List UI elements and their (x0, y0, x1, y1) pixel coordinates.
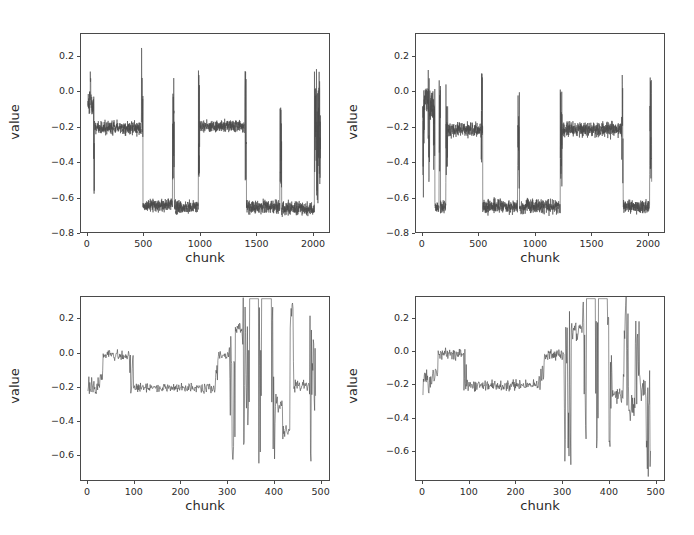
y-tick-mark (77, 127, 80, 128)
x-tick-mark (274, 481, 275, 484)
x-tick-label: 0 (402, 486, 442, 497)
plot-line-bottom-left (81, 297, 329, 480)
y-axis-label-top-left: value (7, 92, 22, 152)
y-tick-label: −0.4 (379, 156, 409, 167)
y-tick-mark (412, 351, 415, 352)
x-tick-mark (227, 481, 228, 484)
y-tick-mark (412, 233, 415, 234)
y-tick-label: −0.6 (379, 445, 409, 456)
y-tick-label: 0.2 (379, 50, 409, 61)
y-tick-mark (77, 162, 80, 163)
figure-canvas: value chunk 0.20.0−0.2−0.4−0.6−0.8 05001… (0, 0, 694, 535)
x-tick-mark (478, 233, 479, 236)
y-tick-label: −0.2 (379, 121, 409, 132)
x-tick-label: 0 (402, 238, 442, 249)
x-tick-mark (321, 481, 322, 484)
y-tick-mark (412, 198, 415, 199)
x-tick-mark (591, 233, 592, 236)
x-tick-mark (87, 233, 88, 236)
y-tick-label: 0.0 (44, 85, 74, 96)
x-tick-mark (609, 481, 610, 484)
panel-bottom-left: value chunk 0.20.0−0.2−0.4−0.6 010020030… (0, 268, 347, 535)
y-tick-label: −0.6 (44, 192, 74, 203)
y-tick-mark (77, 198, 80, 199)
y-tick-mark (77, 233, 80, 234)
x-axis-label-bottom-left: chunk (80, 498, 330, 513)
y-tick-label: −0.2 (379, 378, 409, 389)
y-axis-label-top-right: value (345, 92, 360, 152)
x-tick-label: 200 (160, 486, 200, 497)
x-tick-mark (535, 233, 536, 236)
axes-frame-top-right (415, 33, 665, 233)
x-tick-mark (200, 233, 201, 236)
x-tick-mark (134, 481, 135, 484)
y-tick-label: −0.4 (44, 156, 74, 167)
y-tick-label: −0.6 (379, 192, 409, 203)
x-tick-label: 1500 (236, 238, 276, 249)
y-axis-label-bottom-left: value (7, 356, 22, 416)
x-tick-mark (515, 481, 516, 484)
y-tick-mark (412, 127, 415, 128)
y-tick-label: −0.4 (44, 415, 74, 426)
y-tick-mark (77, 387, 80, 388)
plot-line-bottom-right (416, 297, 664, 480)
x-tick-label: 1000 (180, 238, 220, 249)
x-tick-mark (87, 481, 88, 484)
x-tick-mark (180, 481, 181, 484)
y-tick-label: −0.4 (379, 412, 409, 423)
x-axis-label-bottom-right: chunk (415, 498, 665, 513)
x-tick-mark (562, 481, 563, 484)
x-tick-mark (143, 233, 144, 236)
x-tick-mark (422, 233, 423, 236)
x-tick-label: 0 (67, 238, 107, 249)
x-tick-label: 500 (301, 486, 341, 497)
x-tick-label: 500 (123, 238, 163, 249)
x-tick-mark (656, 481, 657, 484)
y-tick-mark (77, 91, 80, 92)
x-tick-label: 400 (589, 486, 629, 497)
axes-frame-bottom-right (415, 296, 665, 481)
y-tick-mark (77, 56, 80, 57)
x-tick-label: 2000 (628, 238, 668, 249)
y-tick-mark (77, 318, 80, 319)
y-tick-mark (412, 91, 415, 92)
x-tick-label: 500 (458, 238, 498, 249)
y-tick-mark (412, 56, 415, 57)
y-tick-label: 0.2 (44, 312, 74, 323)
y-tick-label: −0.8 (44, 227, 74, 238)
y-tick-mark (412, 451, 415, 452)
y-tick-mark (412, 162, 415, 163)
x-tick-label: 200 (495, 486, 535, 497)
axes-frame-bottom-left (80, 296, 330, 481)
x-tick-label: 300 (207, 486, 247, 497)
x-tick-mark (469, 481, 470, 484)
x-tick-mark (313, 233, 314, 236)
y-tick-mark (77, 421, 80, 422)
y-tick-label: 0.2 (44, 50, 74, 61)
panel-top-left: value chunk 0.20.0−0.2−0.4−0.6−0.8 05001… (0, 0, 347, 268)
x-tick-label: 0 (67, 486, 107, 497)
axes-frame-top-left (80, 33, 330, 233)
x-tick-label: 500 (636, 486, 676, 497)
y-tick-label: −0.6 (44, 449, 74, 460)
plot-line-top-left (81, 34, 329, 232)
y-tick-mark (412, 384, 415, 385)
x-tick-label: 100 (449, 486, 489, 497)
x-axis-label-top-right: chunk (415, 250, 665, 265)
x-tick-label: 1500 (571, 238, 611, 249)
panel-bottom-right: value chunk 0.20.0−0.2−0.4−0.6 010020030… (347, 268, 694, 535)
x-tick-label: 400 (254, 486, 294, 497)
x-tick-label: 100 (114, 486, 154, 497)
y-tick-label: 0.0 (379, 85, 409, 96)
panel-top-right: value chunk 0.20.0−0.2−0.4−0.6−0.8 05001… (347, 0, 694, 268)
x-tick-label: 300 (542, 486, 582, 497)
y-tick-mark (412, 318, 415, 319)
y-tick-label: −0.2 (44, 381, 74, 392)
x-tick-mark (422, 481, 423, 484)
y-tick-label: −0.8 (379, 227, 409, 238)
y-tick-label: 0.0 (379, 345, 409, 356)
y-tick-label: −0.2 (44, 121, 74, 132)
y-tick-mark (77, 353, 80, 354)
y-tick-label: 0.2 (379, 312, 409, 323)
x-tick-mark (256, 233, 257, 236)
